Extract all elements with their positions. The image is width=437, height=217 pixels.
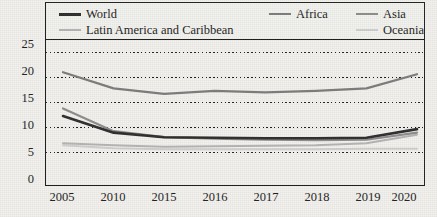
legend-label-asia: Asia xyxy=(383,8,406,21)
y-tick-label-10: 10 xyxy=(12,118,34,133)
legend-item-oceania: Oceania xyxy=(356,24,424,37)
legend-label-africa: Africa xyxy=(296,8,328,21)
legend-swatch-africa xyxy=(269,13,291,15)
legend-item-africa: Africa xyxy=(269,8,328,21)
legend-swatch-world xyxy=(59,13,81,16)
y-tick-label-20: 20 xyxy=(12,64,34,79)
legend-item-latin-america-and-caribbean: Latin America and Caribbean xyxy=(59,24,234,37)
x-tick-label-2010: 2010 xyxy=(91,190,135,205)
chart-legend: World Africa Asia Latin America and Cari… xyxy=(45,2,425,40)
legend-swatch-oceania xyxy=(356,29,378,31)
legend-label-world: World xyxy=(86,8,117,21)
y-tick-label-5: 5 xyxy=(12,145,34,160)
legend-swatch-latin-america-and-caribbean xyxy=(59,29,81,31)
series-line-asia xyxy=(63,108,417,140)
series-line-world xyxy=(63,116,417,138)
x-tick-label-2018: 2018 xyxy=(295,190,339,205)
x-tick-label-2020: 2020 xyxy=(382,190,426,205)
x-tick-label-2015: 2015 xyxy=(142,190,186,205)
legend-swatch-asia xyxy=(356,13,378,15)
y-tick-label-25: 25 xyxy=(12,37,34,52)
legend-item-asia: Asia xyxy=(356,8,406,21)
y-tick-label-0: 0 xyxy=(12,172,34,187)
y-tick-label-15: 15 xyxy=(12,91,34,106)
x-tick-label-2016: 2016 xyxy=(193,190,237,205)
x-tick-label-2005: 2005 xyxy=(40,190,84,205)
chart-figure: Percentage 25 20 15 10 5 0 2005 2010 201… xyxy=(0,0,437,217)
legend-label-latin-america-and-caribbean: Latin America and Caribbean xyxy=(86,24,234,37)
x-tick-label-2017: 2017 xyxy=(244,190,288,205)
legend-item-world: World xyxy=(59,8,117,21)
legend-label-oceania: Oceania xyxy=(383,24,424,37)
series-line-africa xyxy=(63,72,417,94)
